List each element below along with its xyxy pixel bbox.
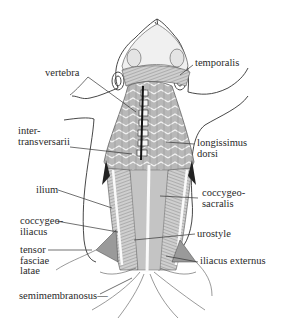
label-text: urostyle xyxy=(197,229,231,240)
label-text: inter- xyxy=(18,126,70,137)
urostyle-bone xyxy=(147,165,149,272)
label-text: dorsi xyxy=(197,149,247,160)
label-text: latae xyxy=(20,266,49,277)
anatomy-figure: vertebra temporalis inter- transversarii… xyxy=(0,0,284,325)
longissimus-dorsi-muscle xyxy=(104,82,194,179)
label-text: vertebra xyxy=(45,68,79,79)
label-text: coccygeo- xyxy=(202,188,245,199)
label-coccygeosacralis: coccygeo- sacralis xyxy=(202,188,245,209)
label-longissimus-dorsi: longissimus dorsi xyxy=(197,138,247,159)
label-text: semimembranosus— xyxy=(19,291,108,302)
label-urostyle: urostyle xyxy=(197,229,231,240)
label-coccygeoiliacus: coccygeo- iliacus xyxy=(20,216,63,237)
label-intertransversarii: inter- transversarii xyxy=(18,126,70,147)
label-temporalis: temporalis xyxy=(195,58,239,69)
label-semimembranosus: semimembranosus— xyxy=(19,291,108,302)
label-text: iliacus xyxy=(20,227,63,238)
label-text: tensor xyxy=(20,245,49,256)
label-iliacus-externus: iliacus externus xyxy=(200,256,266,267)
label-vertebra: vertebra xyxy=(45,68,79,79)
label-tensor-fasciae-latae: tensor fasciae latae xyxy=(20,245,49,277)
label-ilium: ilium xyxy=(36,185,58,196)
label-text: ilium xyxy=(36,185,58,196)
tensor-fasciae-latae-muscle xyxy=(96,230,118,262)
label-text: transversarii xyxy=(18,137,70,148)
label-text: coccygeo- xyxy=(20,216,63,227)
label-text: longissimus xyxy=(197,138,247,149)
label-text: iliacus externus xyxy=(200,256,266,267)
label-text: temporalis xyxy=(195,58,239,69)
label-text: sacralis xyxy=(202,199,245,210)
